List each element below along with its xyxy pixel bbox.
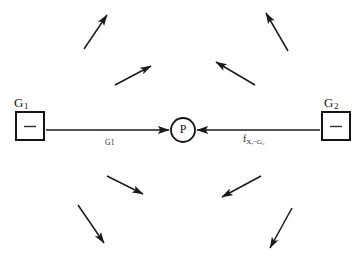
mass-box-g2 xyxy=(322,112,350,140)
field-arrow-ul-outer xyxy=(84,15,107,49)
mass-label-g2-base: G xyxy=(324,95,334,110)
mass-box-g1 xyxy=(16,112,44,140)
mass-label-g2: G2 xyxy=(324,95,339,111)
force-label-from-g2: fX,−G₂ xyxy=(243,133,265,146)
field-point-label: P xyxy=(175,122,191,137)
field-arrow-lr-inner xyxy=(222,176,261,197)
mass-label-g2-subscript: 2 xyxy=(334,101,339,111)
mass-label-g1-base: G xyxy=(14,95,24,110)
gravitational-force-diagram: G1 G2 P G1 fX,−G₂ xyxy=(0,0,361,266)
field-arrow-ul-inner xyxy=(115,66,151,85)
field-arrow-ur-outer xyxy=(266,13,288,51)
force-label-from-g1: G1 xyxy=(105,138,115,147)
mass-label-g1-subscript: 1 xyxy=(24,101,29,111)
field-arrow-lr-outer xyxy=(270,208,292,248)
force-label-from-g2-subscript: X,−G₂ xyxy=(246,138,264,146)
field-arrow-ll-outer xyxy=(78,205,104,243)
field-arrow-ll-inner xyxy=(107,176,143,194)
mass-label-g1: G1 xyxy=(14,95,29,111)
field-arrow-ur-inner xyxy=(216,62,255,85)
force-label-from-g1-subscript: 1 xyxy=(111,138,115,147)
